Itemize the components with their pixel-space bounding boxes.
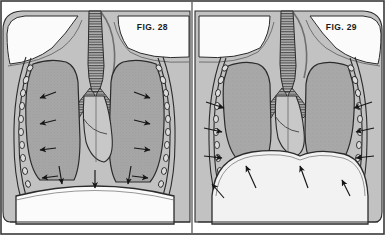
panel-fig-28: FIG. 28 [3, 11, 190, 224]
diaphragm-28 [16, 186, 174, 224]
diaphragm-29 [212, 151, 368, 224]
fig-label-29: FIG. 29 [326, 22, 357, 32]
left-lung-29 [223, 62, 271, 160]
right-lung-29 [305, 62, 354, 164]
trachea-29 [280, 11, 296, 92]
figure-plate: FIG. 28 [0, 0, 385, 235]
panel-fig-29: FIG. 29 [195, 11, 382, 224]
trachea-28 [88, 11, 104, 92]
fig-label-28: FIG. 28 [137, 22, 168, 32]
